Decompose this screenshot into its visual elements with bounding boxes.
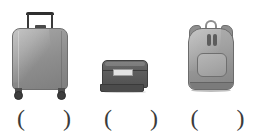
train-case-icon: [100, 58, 150, 94]
close-paren: ): [237, 106, 245, 130]
suitcase-right-ridge: [61, 31, 62, 89]
open-paren: (: [17, 106, 25, 130]
open-paren: (: [104, 106, 112, 130]
item-1-illustration: [0, 0, 88, 105]
worksheet-canvas: ( ) ( ): [0, 0, 261, 139]
train-case-ground-shadow: [104, 91, 146, 93]
item-3-illustration: [174, 0, 261, 105]
item-3-answer-blank[interactable]: [199, 108, 237, 128]
suitcase-wheel-left: [14, 91, 23, 100]
backpack-front-pocket: [197, 53, 227, 77]
backpack-zipper-pull-right: [213, 34, 217, 46]
train-case-latch-plate: [113, 69, 133, 76]
suitcase-left-ridge: [18, 31, 19, 89]
close-paren: ): [150, 106, 158, 130]
item-2-answer-row: ( ): [88, 103, 174, 133]
item-3-answer-row: ( ): [174, 103, 261, 133]
suitcase-wheel-right: [57, 91, 66, 100]
suitcase-handle-post-left: [27, 14, 29, 29]
backpack-icon: [186, 20, 236, 98]
backpack-ground-shadow: [191, 89, 231, 92]
close-paren: ): [63, 106, 71, 130]
rolling-suitcase-icon: [12, 12, 68, 100]
backpack-grab-handle: [205, 20, 217, 28]
backpack-zipper-pull-left: [207, 34, 211, 46]
worksheet-item-1: ( ): [0, 0, 88, 139]
backpack-body: [188, 28, 234, 90]
worksheet-item-3: ( ): [174, 0, 261, 139]
item-2-illustration: [88, 0, 174, 105]
item-1-answer-blank[interactable]: [25, 108, 63, 128]
worksheet-item-2: ( ): [88, 0, 174, 139]
open-paren: (: [191, 106, 199, 130]
suitcase-handle-post-right: [51, 14, 53, 29]
backpack-base-panel: [190, 82, 234, 89]
train-case-top-highlight: [105, 62, 145, 66]
suitcase-body: [12, 28, 68, 90]
item-2-answer-blank[interactable]: [112, 108, 150, 128]
suitcase-handle-bar: [26, 12, 54, 15]
item-1-answer-row: ( ): [0, 103, 88, 133]
